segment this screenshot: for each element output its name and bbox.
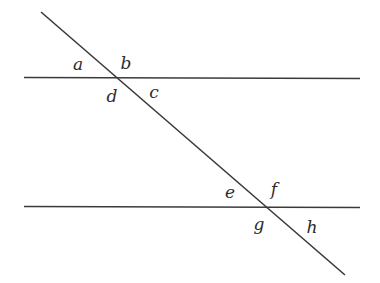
diagram-svg (0, 0, 380, 283)
angle-label-g: g (254, 216, 265, 233)
top-parallel-line (24, 78, 360, 79)
angle-label-d: d (107, 88, 118, 105)
angle-label-f: f (271, 181, 277, 198)
angle-label-h: h (307, 219, 318, 236)
diagram-canvas: a b c d e f g h (0, 0, 380, 283)
angle-label-e: e (225, 184, 235, 201)
bottom-parallel-line (24, 207, 360, 208)
transversal-line (41, 12, 345, 275)
angle-label-b: b (121, 55, 132, 72)
angle-label-a: a (73, 56, 83, 73)
angle-label-c: c (149, 84, 159, 101)
